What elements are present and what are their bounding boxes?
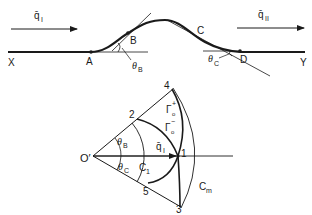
theta-b-label: θ B [132, 60, 143, 73]
label-point-3: 3 [176, 204, 182, 215]
lower-figure: O′ 1 2 3 4 5 θ B θ C C 1 C m q̄ I Γ o + [80, 80, 233, 215]
upper-figure: X A B C D Y θ B θ C q̄ I q̄ II [8, 9, 307, 76]
svg-text:m: m [206, 187, 212, 194]
svg-text:B: B [138, 66, 143, 73]
svg-text:o: o [172, 111, 176, 117]
gamma-lower-curve [148, 156, 178, 183]
svg-text:q̄: q̄ [258, 9, 264, 20]
label-point-4: 4 [164, 80, 170, 91]
cm-label: C m [199, 181, 212, 194]
flow-diagram: X A B C D Y θ B θ C q̄ I q̄ II [0, 0, 312, 215]
label-x: X [8, 57, 15, 68]
theta-c-label: θ C [208, 53, 219, 67]
label-d: D [240, 54, 247, 65]
svg-text:θ: θ [118, 161, 123, 172]
svg-text:C: C [214, 60, 219, 67]
q-out-label: q̄ II [258, 9, 269, 22]
svg-text:II: II [265, 15, 269, 22]
label-point-5: 5 [143, 186, 149, 197]
svg-text:B: B [123, 142, 128, 149]
point-d [238, 49, 242, 53]
svg-text:θ: θ [117, 136, 122, 147]
svg-text:q̄: q̄ [156, 141, 162, 152]
svg-text:1: 1 [146, 168, 150, 175]
svg-text:q̄: q̄ [34, 10, 40, 21]
svg-text:I: I [163, 147, 165, 154]
q-in-label: q̄ I [34, 10, 43, 23]
theta-b-leader [122, 48, 131, 60]
label-point-1: 1 [181, 148, 187, 159]
c1-label: C 1 [139, 162, 150, 175]
point-a [89, 50, 93, 54]
gamma-minus-label: Γ o − [165, 118, 175, 135]
svg-text:o: o [171, 129, 175, 135]
label-y: Y [300, 57, 307, 68]
label-a: A [86, 56, 93, 67]
svg-text:C: C [124, 167, 129, 174]
label-b: B [130, 35, 137, 46]
gamma-plus-label: Γ o + [166, 100, 176, 117]
label-c: C [197, 25, 204, 36]
theta-c-leader [219, 54, 229, 58]
svg-text:I: I [41, 16, 43, 23]
point-1 [176, 154, 179, 157]
lower-theta-c-label: θ C [118, 161, 129, 174]
svg-text:+: + [172, 100, 176, 107]
svg-text:−: − [171, 118, 175, 125]
label-origin: O′ [80, 152, 91, 164]
q-vector-label: q̄ I [156, 141, 165, 154]
lower-theta-b-label: θ B [117, 136, 128, 149]
gamma-to-3-curve [178, 156, 180, 207]
svg-text:θ: θ [208, 53, 213, 64]
label-point-2: 2 [129, 109, 135, 120]
svg-text:θ: θ [132, 60, 137, 71]
arc-c1 [132, 123, 144, 182]
